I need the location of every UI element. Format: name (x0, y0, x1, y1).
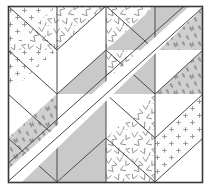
patch-grid (0, 0, 211, 189)
quilt-block-figure (0, 0, 211, 189)
quilt-canvas (0, 0, 211, 189)
